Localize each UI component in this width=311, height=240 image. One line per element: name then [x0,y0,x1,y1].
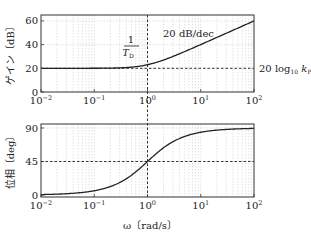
svg-text:20: 20 [25,63,38,74]
phase-y-label: 位相〔deg〕 [4,131,16,190]
x-axis-label: ω〔rad/s〕 [123,220,177,231]
svg-text:90: 90 [25,123,38,134]
bode-plot: 0204060 04590 10−210−1100101102 10−210−1… [0,0,311,240]
svg-text:10−1: 10−1 [83,199,105,211]
svg-text:102: 102 [246,199,263,211]
svg-text:0: 0 [32,190,38,201]
slope-annotation: 20 dB/dec [163,28,214,39]
svg-text:10−1: 10−1 [83,94,105,106]
svg-text:60: 60 [25,15,38,26]
svg-text:100: 100 [139,94,156,106]
svg-text:100: 100 [139,199,156,211]
svg-text:10−2: 10−2 [30,94,52,106]
svg-text:101: 101 [192,199,209,211]
gain-y-label: ゲイン〔dB〕 [5,21,16,85]
svg-text:101: 101 [192,94,209,106]
svg-text:TD: TD [122,47,134,59]
svg-text:1: 1 [128,34,134,45]
kp-annotation: 20 log10 kP [259,63,311,75]
svg-text:10−2: 10−2 [30,199,52,211]
corner-frequency-annotation: 1 TD [122,34,139,59]
svg-text:102: 102 [246,94,263,106]
svg-text:40: 40 [25,39,38,50]
svg-text:45: 45 [25,156,38,167]
